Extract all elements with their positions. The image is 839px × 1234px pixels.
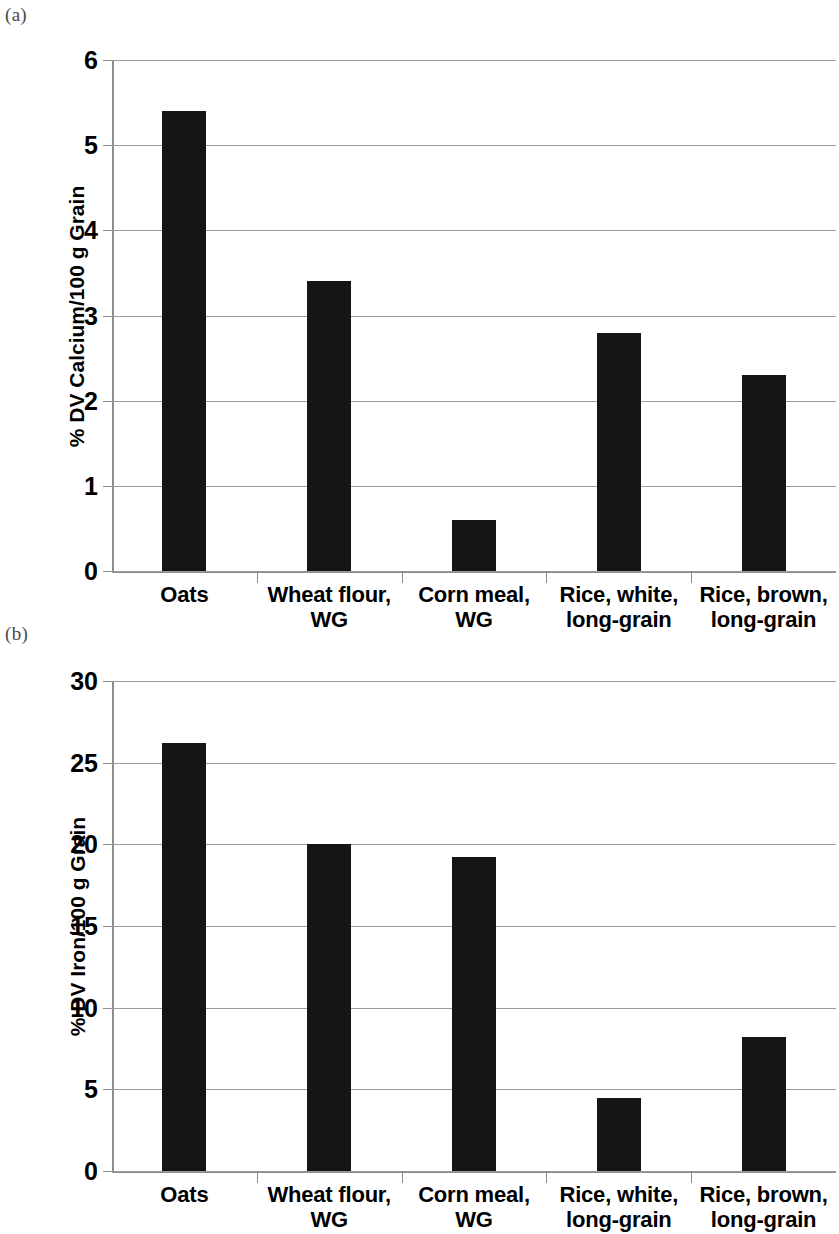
gridline-b bbox=[112, 1171, 836, 1172]
category-label-line1: Oats bbox=[160, 1182, 208, 1207]
y-tick-b bbox=[103, 763, 112, 764]
chart-panel-a: (a) % DV Calcium/100 g Grain 0123456 Oat… bbox=[0, 0, 839, 614]
y-tick-a bbox=[103, 316, 112, 317]
category-label: Wheat flour,WG bbox=[257, 1182, 402, 1233]
y-axis-line-a bbox=[112, 60, 114, 573]
gridline-b bbox=[112, 763, 836, 764]
gridline-a bbox=[112, 486, 836, 487]
category-label-line1: Rice, white, bbox=[559, 582, 678, 607]
y-tick-label-a: 5 bbox=[84, 133, 98, 158]
panel-label-b: (b) bbox=[5, 623, 28, 645]
category-label-line2: long-grain bbox=[546, 1207, 691, 1232]
y-tick-label-b: 15 bbox=[70, 914, 98, 939]
gridline-a bbox=[112, 60, 836, 61]
y-tick-b bbox=[103, 844, 112, 845]
category-label-line2: WG bbox=[402, 1207, 547, 1232]
bar bbox=[742, 375, 786, 571]
bar bbox=[597, 1098, 641, 1172]
category-label-line1: Corn meal, bbox=[418, 1182, 530, 1207]
bar bbox=[452, 857, 496, 1171]
gridline-b bbox=[112, 844, 836, 845]
y-tick-b bbox=[103, 926, 112, 927]
y-tick-label-b: 0 bbox=[84, 1159, 98, 1184]
category-label-line1: Corn meal, bbox=[418, 582, 530, 607]
y-tick-a bbox=[103, 230, 112, 231]
y-tick-label-a: 0 bbox=[84, 559, 98, 584]
category-label-line1: Wheat flour, bbox=[267, 582, 391, 607]
category-label-line2: long-grain bbox=[691, 1207, 836, 1232]
y-tick-label-b: 20 bbox=[70, 832, 98, 857]
y-tick-label-b: 10 bbox=[70, 995, 98, 1020]
bar bbox=[307, 844, 351, 1171]
gridline-a bbox=[112, 571, 836, 572]
y-tick-a bbox=[103, 145, 112, 146]
y-tick-a bbox=[103, 60, 112, 61]
category-label-line1: Rice, brown, bbox=[699, 582, 827, 607]
y-tick-b bbox=[103, 1008, 112, 1009]
category-label-line1: Oats bbox=[160, 582, 208, 607]
category-label-line2: WG bbox=[257, 1207, 402, 1232]
category-label: Corn meal,WG bbox=[402, 1182, 547, 1233]
y-tick-label-b: 25 bbox=[70, 750, 98, 775]
y-tick-label-b: 30 bbox=[70, 669, 98, 694]
y-tick-a bbox=[103, 486, 112, 487]
y-tick-b bbox=[103, 1171, 112, 1172]
y-tick-label-a: 2 bbox=[84, 388, 98, 413]
bar bbox=[307, 281, 351, 571]
y-tick-label-a: 4 bbox=[84, 218, 98, 243]
plot-area-b: % DV Iron/100 g Grain 051015202530 OatsW… bbox=[112, 681, 836, 1173]
bar bbox=[452, 520, 496, 571]
y-tick-label-b: 5 bbox=[84, 1077, 98, 1102]
y-tick-label-a: 1 bbox=[84, 473, 98, 498]
chart-panel-b: (b) % DV Iron/100 g Grain 051015202530 O… bbox=[0, 614, 839, 1234]
y-tick-a bbox=[103, 571, 112, 572]
y-tick-b bbox=[103, 681, 112, 682]
panel-label-a: (a) bbox=[5, 4, 27, 26]
plot-area-a: % DV Calcium/100 g Grain 0123456 OatsWhe… bbox=[112, 60, 836, 573]
category-label: Rice, white,long-grain bbox=[546, 1182, 691, 1233]
category-label-line1: Wheat flour, bbox=[267, 1182, 391, 1207]
y-tick-label-a: 3 bbox=[84, 303, 98, 328]
gridline-b bbox=[112, 681, 836, 682]
category-label-line1: Rice, brown, bbox=[699, 1182, 827, 1207]
y-axis-line-b bbox=[112, 681, 114, 1173]
bar bbox=[162, 743, 206, 1171]
category-label-line1: Rice, white, bbox=[559, 1182, 678, 1207]
category-label: Oats bbox=[112, 582, 257, 607]
y-tick-a bbox=[103, 401, 112, 402]
category-label: Rice, brown,long-grain bbox=[691, 1182, 836, 1233]
bar bbox=[742, 1037, 786, 1171]
bar bbox=[597, 333, 641, 571]
gridline-a bbox=[112, 145, 836, 146]
gridline-a bbox=[112, 316, 836, 317]
y-tick-label-a: 6 bbox=[84, 48, 98, 73]
gridline-a bbox=[112, 230, 836, 231]
y-tick-b bbox=[103, 1089, 112, 1090]
bar bbox=[162, 111, 206, 571]
category-label: Oats bbox=[112, 1182, 257, 1207]
gridline-a bbox=[112, 401, 836, 402]
